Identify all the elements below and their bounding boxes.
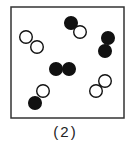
- open-atom-icon: [37, 85, 50, 98]
- filled-atom-icon: [63, 63, 76, 76]
- molecules-group: [20, 17, 115, 110]
- filled-atom-icon: [99, 45, 112, 58]
- open-atom-icon: [99, 75, 112, 88]
- open-atom-icon: [90, 85, 103, 98]
- open-atom-icon: [74, 26, 87, 39]
- molecule-open-filled-2: [29, 85, 50, 110]
- figure-caption: (2): [0, 123, 131, 140]
- molecule-open-open-2: [90, 75, 112, 98]
- open-atom-icon: [20, 31, 33, 44]
- molecule-filled-open-1: [65, 17, 87, 39]
- open-atom-icon: [31, 41, 44, 54]
- molecule-filled-filled-1: [99, 32, 115, 58]
- filled-atom-icon: [50, 63, 63, 76]
- filled-atom-icon: [29, 97, 42, 110]
- molecule-filled-filled-2: [50, 63, 76, 76]
- molecule-open-open-1: [20, 31, 44, 54]
- filled-atom-icon: [102, 32, 115, 45]
